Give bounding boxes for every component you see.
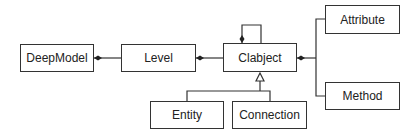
diamond-icon bbox=[196, 56, 204, 61]
class-label: Method bbox=[342, 89, 382, 103]
class-entity: Entity bbox=[150, 101, 224, 129]
class-attribute: Attribute bbox=[325, 5, 400, 34]
class-deepmodel: DeepModel bbox=[20, 44, 94, 72]
class-connection: Connection bbox=[232, 101, 307, 129]
class-label: DeepModel bbox=[26, 51, 87, 65]
class-method: Method bbox=[325, 82, 400, 110]
generalization-triangle-icon bbox=[256, 73, 264, 81]
class-clabject: Clabject bbox=[223, 43, 297, 72]
class-label: Level bbox=[144, 51, 173, 65]
class-label: Clabject bbox=[238, 51, 281, 65]
class-level: Level bbox=[121, 44, 196, 72]
diamond-icon bbox=[297, 56, 305, 61]
diamond-icon bbox=[94, 56, 102, 61]
class-label: Connection bbox=[239, 108, 300, 122]
class-label: Attribute bbox=[340, 13, 385, 27]
diamond-icon bbox=[240, 35, 245, 43]
class-label: Entity bbox=[172, 108, 202, 122]
